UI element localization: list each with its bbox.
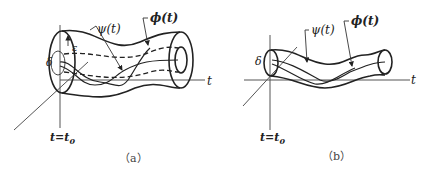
stability-diagram: ψ(t) ϕ(t) ε δ t t=t0 （a） ψ(t) ϕ(t) δ t t… bbox=[0, 0, 427, 173]
phi-label: ϕ(t) bbox=[351, 14, 379, 28]
diagonal-axis bbox=[14, 62, 88, 130]
panel-a: ψ(t) ϕ(t) ε δ t t=t0 （a） bbox=[14, 11, 212, 165]
psi-label: ψ(t) bbox=[97, 22, 121, 36]
t-axis-label: t bbox=[207, 74, 212, 88]
tube-a bbox=[49, 30, 193, 97]
phi-label: ϕ(t) bbox=[150, 11, 178, 25]
t0-label: t=t0 bbox=[50, 131, 75, 146]
caption-a: （a） bbox=[119, 152, 148, 165]
panel-b: ψ(t) ϕ(t) δ t t=t0 （b） bbox=[243, 14, 416, 163]
caption-b: （b） bbox=[322, 150, 351, 163]
psi-pointer bbox=[305, 30, 309, 62]
dashed-path-upper bbox=[64, 47, 178, 57]
epsilon-label: ε bbox=[72, 42, 77, 53]
t0-label: t=t0 bbox=[260, 131, 285, 146]
trajectory-psi bbox=[272, 64, 355, 84]
delta-label: δ bbox=[255, 55, 262, 68]
psi-label: ψ(t) bbox=[311, 23, 335, 37]
t-axis-label: t bbox=[411, 73, 416, 87]
trajectory-phi bbox=[60, 60, 178, 85]
trajectory-phi bbox=[272, 60, 385, 81]
delta-label: δ bbox=[46, 56, 53, 69]
